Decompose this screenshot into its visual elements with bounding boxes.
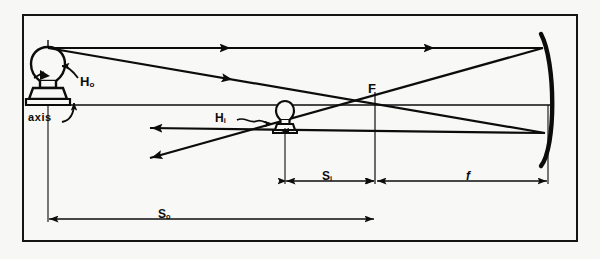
diagram-page: Ho axis Hi F Si f So [0,0,600,259]
image-distance-label: Si [322,170,332,182]
object-bulb-socket [26,99,70,105]
image-height-label-text: H [215,111,224,125]
object-distance-label-sub: o [166,212,171,221]
image-bulb-glass [276,101,294,120]
object-height-label-sub: o [89,80,94,89]
focal-length-label: f [466,170,470,182]
object-distance-label: So [158,208,171,220]
object-bulb-base [29,88,67,99]
object-height-label-text: H [80,74,89,89]
object-height-label: Ho [80,75,94,88]
reflected-parallel-ray [150,128,545,133]
image-distance-label-text: S [322,169,330,183]
reflected-through-focus-ray [150,48,543,158]
concave-mirror [541,34,552,166]
image-distance-label-sub: i [330,174,332,183]
axis-label: axis [28,112,52,123]
through-focus-incident-ray [48,48,545,133]
focal-point-label: F [368,82,376,95]
ray-diagram-canvas [0,0,600,259]
image-height-label-sub: i [224,116,226,125]
image-height-pointer [237,119,272,124]
object-distance-label-text: S [158,207,166,221]
image-height-label: Hi [215,112,226,124]
